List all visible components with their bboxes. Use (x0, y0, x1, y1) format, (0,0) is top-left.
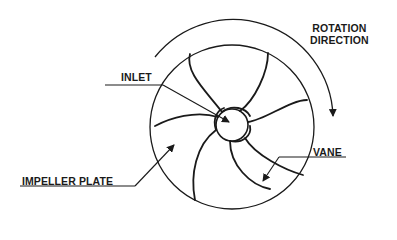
rotation-label-line1: ROTATION (310, 22, 369, 34)
vane-label: VANE (313, 146, 342, 158)
vane-6 (193, 130, 216, 200)
impeller-plate-circle (150, 45, 314, 209)
vane-1 (189, 54, 222, 112)
rotation-direction-arrow (155, 20, 333, 116)
vane-5 (230, 141, 270, 189)
rotation-direction-label: ROTATION DIRECTION (310, 22, 369, 46)
impeller-plate-label: IMPELLER PLATE (22, 175, 113, 187)
vane-7 (155, 114, 218, 126)
inlet-hub-circle (216, 109, 248, 141)
vanes (155, 53, 307, 200)
rotation-label-line2: DIRECTION (310, 34, 369, 46)
inlet-leader (105, 85, 229, 122)
vane-2 (240, 53, 268, 111)
inlet-label: INLET (121, 71, 152, 83)
vane-3 (248, 100, 307, 122)
vane-leader (263, 157, 346, 181)
